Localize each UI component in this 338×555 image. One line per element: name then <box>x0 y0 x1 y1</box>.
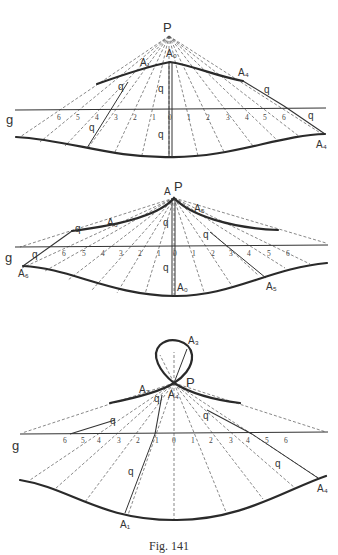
point-label: A₃ <box>188 335 199 346</box>
svg-text:4: 4 <box>95 113 99 122</box>
point-label: A₀ <box>177 282 188 293</box>
svg-text:6: 6 <box>57 113 61 122</box>
segment-label: q <box>154 393 160 404</box>
segment-label: q <box>203 410 209 421</box>
line-g-label: g <box>6 112 13 127</box>
segment-label: q <box>264 84 270 95</box>
svg-text:2: 2 <box>138 249 142 258</box>
segment-label: q <box>118 81 124 92</box>
figure-caption: Fig. 141 <box>149 539 189 553</box>
segment-label: q <box>163 262 169 273</box>
svg-text:3: 3 <box>119 249 123 258</box>
svg-text:6: 6 <box>63 436 67 445</box>
point-label: A₆ <box>107 217 118 228</box>
segment-label: q <box>75 223 81 234</box>
scale: 6 5 4 3 2 1 0 1 2 3 4 5 6 <box>62 249 290 258</box>
pole-label: P <box>174 179 183 194</box>
point-label: A₀ <box>166 48 177 59</box>
svg-text:6: 6 <box>286 249 290 258</box>
point-label: A <box>164 186 171 197</box>
pole-label: P <box>163 20 172 35</box>
segment-label: q <box>163 217 169 228</box>
point-label: A₄ <box>317 483 328 494</box>
pole-label: P <box>186 375 195 390</box>
svg-text:0: 0 <box>173 249 177 258</box>
svg-text:5: 5 <box>82 249 86 258</box>
svg-text:1: 1 <box>157 249 161 258</box>
svg-text:2: 2 <box>136 436 140 445</box>
line-g <box>15 108 326 110</box>
line-g-label: g <box>12 438 19 453</box>
svg-text:5: 5 <box>267 249 271 258</box>
lower-branch <box>20 476 326 520</box>
segment-label: q <box>128 466 134 477</box>
panel-bottom: P g A₃ A₂ A₄ A₁ A₄ q q q q q 6 5 4 3 2 1… <box>12 335 328 530</box>
svg-text:3: 3 <box>114 113 118 122</box>
svg-text:1: 1 <box>152 113 156 122</box>
svg-text:5: 5 <box>265 436 269 445</box>
point-label: A₁ <box>140 57 151 68</box>
svg-text:3: 3 <box>117 436 121 445</box>
svg-text:1: 1 <box>155 436 159 445</box>
point-label: A₄ <box>316 139 327 150</box>
svg-text:5: 5 <box>263 113 267 122</box>
svg-text:2: 2 <box>206 113 210 122</box>
segment-label: q <box>275 458 281 469</box>
panel-middle: P A g A₆ A₅ A₆ A₀ A₅ q q q q q 6 5 4 3 2… <box>5 179 328 296</box>
svg-text:3: 3 <box>229 436 233 445</box>
svg-text:0: 0 <box>172 436 176 445</box>
panel-top: P g A₁ A₀ A₄ A₄ q q q q q q 6 5 4 3 2 1 … <box>6 20 327 157</box>
segment-label: q <box>89 122 95 133</box>
segment-label: q <box>158 83 164 94</box>
segment-label: q <box>158 129 164 140</box>
svg-text:2: 2 <box>209 436 213 445</box>
svg-text:4: 4 <box>101 249 105 258</box>
point-label: A₆ <box>18 268 29 279</box>
svg-text:1: 1 <box>192 249 196 258</box>
svg-text:2: 2 <box>211 249 215 258</box>
segment-label: q <box>110 415 116 426</box>
svg-text:6: 6 <box>284 436 288 445</box>
svg-text:4: 4 <box>245 113 249 122</box>
line-g-label: g <box>5 250 12 265</box>
svg-text:1: 1 <box>187 113 191 122</box>
svg-text:3: 3 <box>226 113 230 122</box>
lower-branch <box>16 134 325 157</box>
svg-text:6: 6 <box>282 113 286 122</box>
point-label: A₂ <box>139 384 150 395</box>
point-label: A₄ <box>238 67 249 78</box>
segment-label: q <box>32 249 38 260</box>
segment-label: q <box>203 229 209 240</box>
svg-text:2: 2 <box>133 113 137 122</box>
point-label: A₅ <box>194 203 205 214</box>
scale: 6 5 4 3 2 1 0 1 2 3 4 5 6 <box>57 113 286 122</box>
scale: 6 5 4 3 2 1 0 1 2 3 4 5 6 <box>63 436 288 445</box>
svg-text:6: 6 <box>62 249 66 258</box>
svg-text:0: 0 <box>168 113 172 122</box>
svg-text:4: 4 <box>246 436 250 445</box>
figure-141: P g A₁ A₀ A₄ A₄ q q q q q q 6 5 4 3 2 1 … <box>0 0 338 555</box>
svg-text:5: 5 <box>76 113 80 122</box>
point-label: A₅ <box>266 281 277 292</box>
svg-text:5: 5 <box>81 436 85 445</box>
svg-text:1: 1 <box>191 436 195 445</box>
segment-label: q <box>308 110 314 121</box>
point-label: A₄ <box>168 389 179 400</box>
svg-text:3: 3 <box>229 249 233 258</box>
svg-text:4: 4 <box>247 249 251 258</box>
point-label: A₁ <box>120 519 131 530</box>
svg-text:4: 4 <box>97 436 101 445</box>
